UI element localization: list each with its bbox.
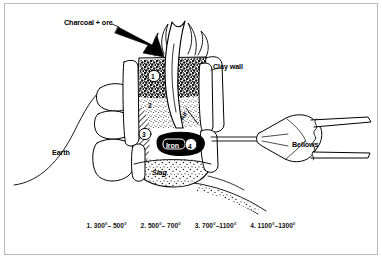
drawing-ink [14,21,371,214]
ground-right [208,176,244,190]
flame-3 [188,23,196,55]
flame-4 [198,31,208,57]
clay-wall-left-outer [123,60,139,146]
charcoal-ore-arrow [115,27,164,57]
bellows-handle-upper [311,117,371,127]
label-iron: Iron [166,142,179,149]
furnace-diagram [0,0,382,259]
label-bellows: Bellows [292,140,318,149]
earth-ground-line [14,86,106,185]
legend-item-2: 2. 500°– 700° [141,222,181,229]
label-slag: Slag [152,168,167,177]
slag-runoff-fill [195,184,259,213]
figure-page: Charcoal + ore Clay wall Bellows Earth S… [0,0,382,259]
bellows-handle-lower [311,152,370,158]
zone-number-1: 1 [151,73,155,80]
legend-item-1: 1. 300°– 500° [86,222,126,229]
label-charcoal-plus-ore: Charcoal + ore [64,18,113,27]
charcoal-ore-leader [112,24,119,27]
zone-number-2: 2 [148,102,152,109]
label-earth: Earth [52,148,70,157]
slag-fill [134,158,211,186]
temperature-legend: 1. 300°– 500° 2. 500°– 700° 3. 700°–1100… [0,222,382,229]
legend-item-3: 3. 700°–1100° [195,222,237,229]
clay-wall-right-mid [199,63,213,132]
legend-item-4: 4. 1100°–1300° [250,222,295,229]
zone-number-4: 4 [188,143,192,150]
zone-number-3: 3 [142,131,146,138]
clay-wall-right-lower [200,130,218,173]
label-clay-wall: Clay wall [213,62,243,71]
